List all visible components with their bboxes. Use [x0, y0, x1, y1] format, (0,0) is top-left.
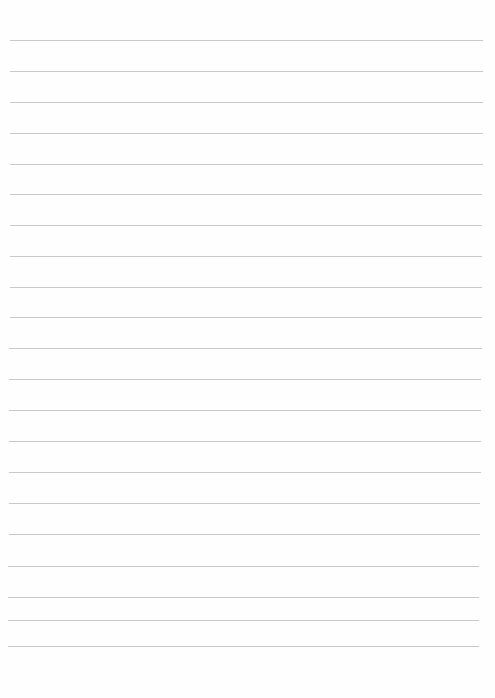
ruled-line — [10, 287, 482, 288]
ruled-line — [9, 503, 480, 504]
ruled-line — [8, 597, 479, 598]
ruled-line — [10, 133, 483, 134]
ruled-line — [10, 256, 482, 257]
ruled-line — [10, 164, 483, 165]
ruled-line — [9, 472, 481, 473]
ruled-line — [9, 379, 481, 380]
ruled-line — [10, 225, 482, 226]
ruled-line — [9, 348, 482, 349]
ruled-line — [10, 71, 483, 72]
ruled-line — [10, 194, 482, 195]
ruled-line — [10, 40, 483, 41]
ruled-line — [9, 410, 481, 411]
lined-paper-page — [0, 0, 495, 698]
ruled-line — [10, 102, 483, 103]
ruled-line — [9, 441, 481, 442]
ruled-line — [9, 534, 480, 535]
ruled-line — [10, 317, 482, 318]
ruled-line — [8, 566, 479, 567]
ruled-line — [8, 646, 479, 647]
ruled-line — [8, 620, 479, 621]
